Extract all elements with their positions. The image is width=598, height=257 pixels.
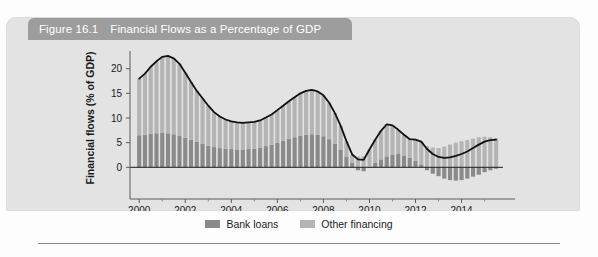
x-tick-label: 2014 [450, 205, 473, 211]
bar-segment [327, 139, 331, 167]
bar-segment [281, 106, 285, 141]
bar-segment [206, 146, 210, 168]
bar-segment [200, 98, 204, 143]
bar-segment [390, 125, 394, 154]
bar-segment [494, 138, 498, 167]
bar-segment [154, 61, 158, 133]
page-title: Financial Flows as a Percentage of GDP [110, 23, 321, 35]
bar-segment [195, 91, 199, 142]
bar-segment [408, 139, 412, 158]
bar-segment [172, 58, 176, 134]
bar-segment [298, 93, 302, 135]
bar-segment [379, 159, 383, 167]
bar-segment [281, 141, 285, 168]
bar-segment [160, 57, 164, 133]
bar-segment [223, 119, 227, 148]
bar-segment [183, 138, 187, 168]
x-tick-label: 2004 [220, 205, 243, 211]
financial-flows-chart: 05101520Financial flows (% of GDP)200020… [6, 39, 580, 211]
bar-segment [396, 130, 400, 154]
bar-segment [247, 149, 251, 167]
bar-segment [154, 133, 158, 167]
bar-segment [183, 73, 187, 138]
bar-segment [431, 148, 435, 168]
plot-area: 05101520Financial flows (% of GDP)200020… [6, 39, 580, 211]
bar-segment [339, 150, 343, 168]
bar-segment [189, 82, 193, 140]
bar-segment [270, 145, 274, 168]
bar-segment [252, 149, 256, 168]
bar-segment [241, 150, 245, 168]
bar-segment [287, 139, 291, 168]
bar-segment [166, 133, 170, 167]
y-tick-label: 5 [116, 137, 122, 148]
bar-segment [223, 149, 227, 168]
figure-card: Figure 16.1 Financial Flows as a Percent… [6, 17, 580, 211]
x-tick-label: 2010 [358, 205, 381, 211]
bar-segment [241, 123, 245, 150]
bar-segment [298, 136, 302, 168]
bar-segment [200, 144, 204, 168]
bar-segment [172, 134, 176, 167]
chart-legend: Bank loans Other financing [0, 216, 598, 232]
bar-segment [465, 140, 469, 167]
bar-segment [413, 161, 417, 167]
bar-segment [471, 139, 475, 168]
bar-segment [362, 167, 366, 171]
y-axis-title: Financial flows (% of GDP) [84, 51, 96, 184]
bar-segment [218, 148, 222, 167]
bar-segment [344, 156, 348, 167]
bar-segment [350, 163, 354, 167]
bar-segment [436, 167, 440, 176]
bar-segment [206, 106, 210, 146]
bar-segment [390, 154, 394, 167]
bar-segment [402, 155, 406, 167]
bar-segment [258, 148, 262, 168]
bar-segment [413, 140, 417, 161]
bar-segment [459, 167, 463, 180]
bar-segment [275, 143, 279, 168]
figure-title-bar: Figure 16.1 Financial Flows as a Percent… [28, 18, 352, 40]
legend-item-bank-loans: Bank loans [205, 218, 278, 230]
bar-segment [327, 103, 331, 139]
bar-segment [471, 167, 475, 176]
bar-segment [431, 167, 435, 173]
bar-segment [477, 167, 481, 174]
bar-segment [229, 121, 233, 149]
y-tick-label: 20 [111, 63, 123, 74]
bar-segment [177, 64, 181, 136]
bar-segment [316, 135, 320, 168]
x-tick-label: 2006 [266, 205, 289, 211]
bar-segment [483, 167, 487, 172]
bar-segment [149, 67, 153, 134]
legend-label-bank-loans: Bank loans [226, 218, 278, 230]
y-tick-label: 10 [111, 113, 123, 124]
bar-segment [465, 167, 469, 178]
bar-segment [321, 95, 325, 136]
bar-segment [304, 135, 308, 168]
x-tick-label: 2008 [312, 205, 335, 211]
bar-segment [212, 112, 216, 147]
bar-segment [258, 120, 262, 147]
bar-segment [143, 74, 147, 135]
bar-segment [316, 91, 320, 134]
bar-segment [235, 122, 239, 149]
bar-segment [264, 146, 268, 167]
bar-segment [137, 135, 141, 167]
bar-segment [287, 101, 291, 138]
bar-segment [448, 167, 452, 180]
bar-segment [442, 167, 446, 178]
legend-label-other-financing: Other financing [321, 218, 392, 230]
bar-segment [385, 156, 389, 167]
bar-segment [293, 97, 297, 137]
x-tick-label: 2002 [174, 205, 197, 211]
y-tick-label: 0 [116, 162, 122, 173]
bar-segment [454, 167, 458, 180]
figure-number: Figure 16.1 [39, 23, 98, 35]
bar-segment [321, 136, 325, 167]
bar-segment [195, 142, 199, 168]
bar-segment [333, 144, 337, 168]
bar-segment [408, 158, 412, 167]
bar-segment [143, 135, 147, 168]
legend-swatch-bank-loans [205, 220, 220, 228]
